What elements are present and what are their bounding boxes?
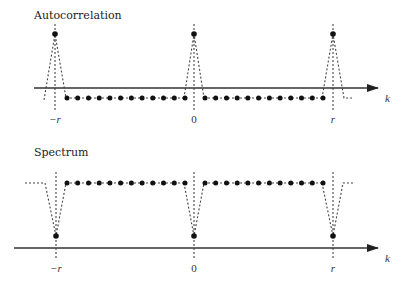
peak-dot-r: [330, 31, 336, 37]
dip-lobe-neg-r: [25, 183, 66, 236]
dip-lobe-r: [322, 183, 355, 236]
autocorrelation-axis-label: k: [385, 92, 391, 104]
tick-label-neg-r: −r: [49, 113, 61, 125]
dip-dot-r: [330, 233, 336, 239]
spectrum-tick-label-r: r: [331, 262, 336, 274]
spectrum-axis-label: k: [385, 252, 391, 264]
autocorrelation-panel: Autocorrelation k: [33, 9, 391, 125]
figure: Autocorrelation k: [0, 0, 401, 285]
peak-dot-neg-r: [52, 31, 58, 37]
peak-dot-zero: [191, 31, 197, 37]
spectrum-title: Spectrum: [34, 146, 89, 159]
spectrum-panel: Spectrum k: [14, 146, 391, 274]
peak-lobe-neg-r: [44, 34, 66, 100]
autocorrelation-title: Autocorrelation: [33, 9, 122, 22]
tick-label-r: r: [331, 113, 336, 125]
spectrum-tick-label-neg-r: −r: [50, 262, 62, 274]
dip-dot-zero: [191, 233, 197, 239]
dip-dot-neg-r: [53, 233, 59, 239]
tick-label-zero: 0: [191, 113, 197, 125]
spectrum-tick-label-zero: 0: [191, 262, 197, 274]
